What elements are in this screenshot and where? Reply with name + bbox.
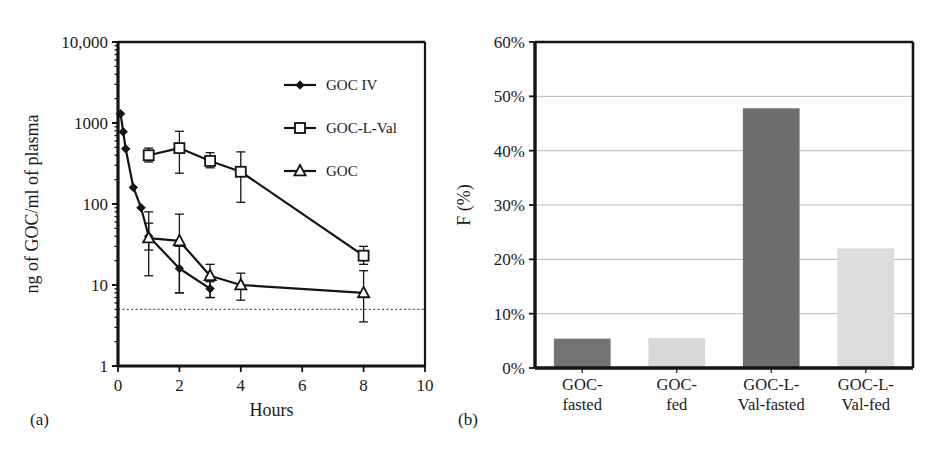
data-point-marker <box>144 150 154 160</box>
panel-b-ytick-label: 60% <box>494 33 525 52</box>
panel-a-ytick-label: 1 <box>100 357 109 376</box>
panel-b-ytick-label: 20% <box>494 250 525 269</box>
bar-goc-fed <box>648 338 705 368</box>
figure-svg: 110100100010,0000246810Hoursng of GOC/ml… <box>0 0 948 456</box>
category-label-line: fasted <box>563 395 603 414</box>
panel-a-legend: GOC IVGOC-L-ValGOC <box>284 77 397 179</box>
panel-a-caption-label: (a) <box>30 410 49 429</box>
data-point-marker <box>205 156 215 166</box>
legend-marker-filled-diamond <box>296 81 304 89</box>
panel-a-ytick-label: 10 <box>91 276 108 295</box>
panel-a-yaxis-title: ng of GOC/ml of plasma <box>22 115 42 294</box>
legend-label-goc: GOC <box>326 163 358 179</box>
data-point-marker <box>129 183 137 191</box>
category-label-line: GOC-L- <box>838 375 894 394</box>
data-point-marker <box>119 128 127 136</box>
data-point-marker <box>137 204 145 212</box>
category-label-line: Val-fasted <box>738 395 806 414</box>
panel-a-xtick-label: 8 <box>359 376 368 395</box>
panel-a-xtick-label: 10 <box>417 376 434 395</box>
panel-a-xtick-label: 4 <box>237 376 246 395</box>
series-goc-iv <box>116 110 214 298</box>
panel-a-ytick-label: 100 <box>83 195 109 214</box>
category-label-line: Val-fed <box>841 395 890 414</box>
panel-b: 0%10%20%30%40%50%60%GOC-fastedGOC-fedGOC… <box>454 33 913 429</box>
data-point-marker <box>174 143 184 153</box>
data-point-marker <box>236 167 246 177</box>
bar-goc-fasted <box>554 339 611 368</box>
category-label-line: GOC- <box>657 375 697 394</box>
panel-a-xaxis-title: Hours <box>250 400 294 420</box>
panel-a-ytick-label: 10,000 <box>61 33 108 52</box>
category-label-line: GOC-L- <box>743 375 799 394</box>
data-point-marker <box>143 232 154 242</box>
panel-b-category-label-goc-fasted: GOC-fasted <box>562 375 603 414</box>
panel-b-category-label-goc-l-val-fed: GOC-L-Val-fed <box>838 375 894 414</box>
panel-b-caption-label: (b) <box>458 410 478 429</box>
panel-b-category-label-goc-fed: GOC-fed <box>657 375 697 414</box>
panel-b-ytick-label: 10% <box>494 305 525 324</box>
panel-b-ytick-label: 30% <box>494 196 525 215</box>
figure-container: 110100100010,0000246810Hoursng of GOC/ml… <box>0 0 948 456</box>
panel-a-xtick-label: 0 <box>114 376 123 395</box>
panel-b-bars <box>554 108 894 368</box>
data-point-marker <box>359 251 369 261</box>
legend-marker-open-square <box>295 123 305 133</box>
bar-goc-l-val-fed <box>837 248 894 368</box>
panel-b-ytick-label: 50% <box>494 87 525 106</box>
series-line <box>121 114 211 289</box>
legend-label-goc-iv: GOC IV <box>326 77 377 93</box>
panel-b-ytick-label: 0% <box>502 359 525 378</box>
data-point-marker <box>121 145 129 153</box>
panel-a-xtick-label: 2 <box>175 376 184 395</box>
panel-b-yaxis-title: F (%) <box>454 184 475 226</box>
panel-a-ytick-label: 1000 <box>74 114 108 133</box>
panel-a: 110100100010,0000246810Hoursng of GOC/ml… <box>22 33 434 430</box>
panel-b-category-label-goc-l-val-fasted: GOC-L-Val-fasted <box>738 375 806 414</box>
panel-b-ytick-label: 40% <box>494 142 525 161</box>
category-label-line: GOC- <box>562 375 602 394</box>
category-label-line: fed <box>666 395 688 414</box>
panel-a-xtick-label: 6 <box>298 376 307 395</box>
legend-label-goc-l-val: GOC-L-Val <box>326 120 397 136</box>
bar-goc-l-val-fasted <box>743 108 800 368</box>
